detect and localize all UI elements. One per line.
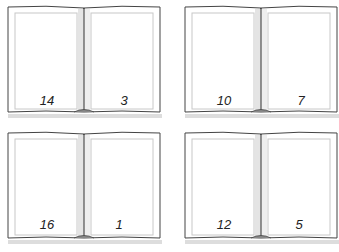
right-page-number: 5	[279, 217, 319, 232]
right-page-number: 7	[281, 93, 321, 108]
open-book-4: 12 5	[183, 130, 339, 242]
left-page-number: 14	[27, 93, 67, 108]
left-page-number: 16	[27, 217, 67, 232]
left-page-number: 12	[204, 217, 244, 232]
open-book-1: 14 3	[6, 4, 162, 116]
right-page-number: 3	[104, 93, 144, 108]
open-book-2: 10 7	[183, 4, 339, 116]
left-page-number: 10	[204, 93, 244, 108]
right-page-number: 1	[99, 217, 139, 232]
open-book-3: 16 1	[6, 130, 162, 242]
